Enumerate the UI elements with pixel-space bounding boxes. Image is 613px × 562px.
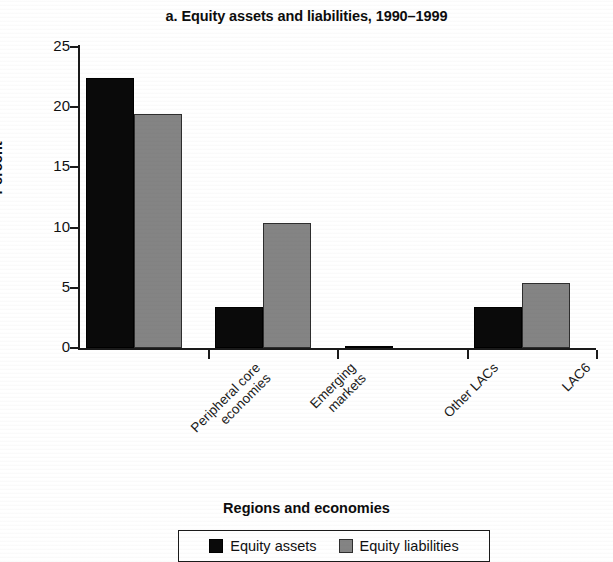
y-tick-label: 25 <box>24 37 70 54</box>
legend-swatch-equity-assets <box>209 539 223 553</box>
legend-item-equity-liabilities: Equity liabilities <box>339 538 459 554</box>
y-tick-mark <box>70 166 78 168</box>
chart-legend: Equity assets Equity liabilities <box>178 530 490 562</box>
y-tick-mark <box>70 287 78 289</box>
legend-item-equity-assets: Equity assets <box>209 538 316 554</box>
bar-equity-liabilities <box>522 283 570 348</box>
category-label: Other LACs <box>440 360 500 420</box>
bar-equity-assets <box>215 307 263 348</box>
legend-label-equity-liabilities: Equity liabilities <box>360 538 459 554</box>
bar-equity-assets <box>474 307 522 348</box>
y-tick-label: 10 <box>24 218 70 235</box>
y-tick-label: 5 <box>24 278 70 295</box>
y-tick-label: 0 <box>24 338 70 355</box>
y-tick-mark <box>70 227 78 229</box>
legend-swatch-equity-liabilities <box>339 539 353 553</box>
category-label: Peripheral coreeconomies <box>188 360 274 446</box>
y-tick-label: 15 <box>24 157 70 174</box>
y-axis-title: Percent <box>0 141 5 194</box>
y-tick-mark <box>70 347 78 349</box>
x-tick-mark <box>208 350 210 359</box>
figure-equity-assets-liabilities: a. Equity assets and liabilities, 1990–1… <box>0 0 613 562</box>
bar-equity-assets <box>345 346 393 348</box>
x-tick-mark <box>467 350 469 359</box>
x-tick-mark <box>596 350 598 359</box>
bar-equity-assets <box>86 78 134 348</box>
chart-title: a. Equity assets and liabilities, 1990–1… <box>0 8 613 24</box>
category-label-line: LAC6 <box>559 360 593 394</box>
category-label: Emergingmarkets <box>307 360 369 422</box>
legend-label-equity-assets: Equity assets <box>230 538 316 554</box>
bars-container <box>78 47 596 348</box>
category-label-line: Other LACs <box>440 360 500 420</box>
bar-equity-liabilities <box>263 223 311 348</box>
category-label: LAC6 <box>559 360 593 394</box>
x-axis-title: Regions and economies <box>0 500 613 516</box>
x-tick-mark <box>337 350 339 359</box>
y-tick-label: 20 <box>24 97 70 114</box>
y-tick-mark <box>70 106 78 108</box>
y-tick-mark <box>70 46 78 48</box>
bar-equity-liabilities <box>134 114 182 348</box>
